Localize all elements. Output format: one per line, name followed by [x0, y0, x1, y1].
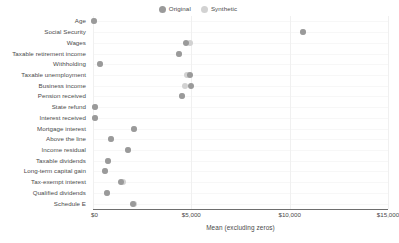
- legend-label-synthetic: Synthetic: [211, 6, 237, 12]
- row-gridline: [93, 64, 388, 65]
- row-gridline: [93, 118, 388, 119]
- y-axis-label: Qualified dividends: [33, 190, 86, 196]
- row-gridline: [93, 150, 388, 151]
- x-gridline: [388, 16, 389, 209]
- data-point-original[interactable]: [125, 147, 131, 153]
- row-gridline: [93, 54, 388, 55]
- data-point-original[interactable]: [183, 40, 189, 46]
- data-point-original[interactable]: [105, 158, 111, 164]
- row-gridline: [93, 43, 388, 44]
- y-axis-labels: AgeSocial SecurityWagesTaxable retiremen…: [0, 16, 90, 209]
- legend-item-original[interactable]: Original: [159, 6, 191, 13]
- x-gridline: [290, 16, 291, 209]
- y-axis-label: Social Security: [44, 29, 86, 35]
- y-axis-label: Business income: [38, 83, 86, 89]
- y-axis-label: Taxable dividends: [36, 158, 86, 164]
- y-axis-label: Schedule E: [54, 201, 86, 207]
- data-point-original[interactable]: [176, 51, 182, 57]
- chart-legend: Original Synthetic: [0, 2, 396, 16]
- legend-item-synthetic[interactable]: Synthetic: [201, 6, 237, 13]
- y-axis-label: Tax-exempt interest: [31, 179, 86, 185]
- data-point-original[interactable]: [108, 136, 114, 142]
- row-gridline: [93, 107, 388, 108]
- y-axis-label: Pension received: [38, 93, 86, 99]
- y-axis-label: Long-term capital gain: [24, 168, 86, 174]
- x-axis-tick-label: $0: [91, 212, 98, 218]
- x-axis-tick-label: $15,000: [377, 212, 399, 218]
- row-gridline: [93, 139, 388, 140]
- plot-area: [93, 16, 388, 209]
- circle-marker-icon: [159, 6, 166, 13]
- grid-lines: [93, 16, 388, 209]
- y-axis-label: Wages: [67, 40, 86, 46]
- row-gridline: [93, 171, 388, 172]
- row-gridline: [93, 96, 388, 97]
- data-point-original[interactable]: [130, 201, 136, 207]
- data-point-original[interactable]: [300, 29, 306, 35]
- data-point-original[interactable]: [188, 83, 194, 89]
- data-point-original[interactable]: [187, 72, 193, 78]
- x-axis-title: Mean (excluding zeros): [93, 224, 388, 231]
- x-axis-ticks: $0$5,000$10,000$15,000: [93, 212, 396, 224]
- y-axis-label: Taxable unemployment: [21, 72, 86, 78]
- row-gridline: [93, 161, 388, 162]
- y-axis-label: Above the line: [46, 136, 86, 142]
- x-axis-line: [93, 209, 388, 210]
- x-axis-tick-label: $5,000: [182, 212, 201, 218]
- row-gridline: [93, 193, 388, 194]
- y-axis-label: Income residual: [42, 147, 86, 153]
- data-point-original[interactable]: [91, 18, 97, 24]
- row-gridline: [93, 86, 388, 87]
- data-point-original[interactable]: [104, 190, 110, 196]
- y-axis-label: Withholding: [53, 61, 86, 67]
- y-axis-label: Interest received: [39, 115, 86, 121]
- y-axis-label: Age: [75, 18, 86, 24]
- y-axis-label: State refund: [52, 104, 86, 110]
- row-gridline: [93, 182, 388, 183]
- x-gridline: [93, 16, 94, 209]
- row-gridline: [93, 21, 388, 22]
- data-point-original[interactable]: [118, 179, 124, 185]
- x-axis-tick-label: $10,000: [278, 212, 300, 218]
- data-point-original[interactable]: [92, 104, 98, 110]
- data-point-original[interactable]: [92, 115, 98, 121]
- row-gridline: [93, 32, 388, 33]
- data-point-original[interactable]: [97, 61, 103, 67]
- circle-marker-icon: [201, 6, 208, 13]
- y-axis-label: Taxable retirement income: [12, 50, 86, 56]
- legend-label-original: Original: [169, 6, 191, 12]
- data-point-original[interactable]: [102, 168, 108, 174]
- data-point-original[interactable]: [131, 126, 137, 132]
- row-gridline: [93, 75, 388, 76]
- y-axis-label: Mortgage interest: [37, 125, 86, 131]
- data-point-original[interactable]: [179, 93, 185, 99]
